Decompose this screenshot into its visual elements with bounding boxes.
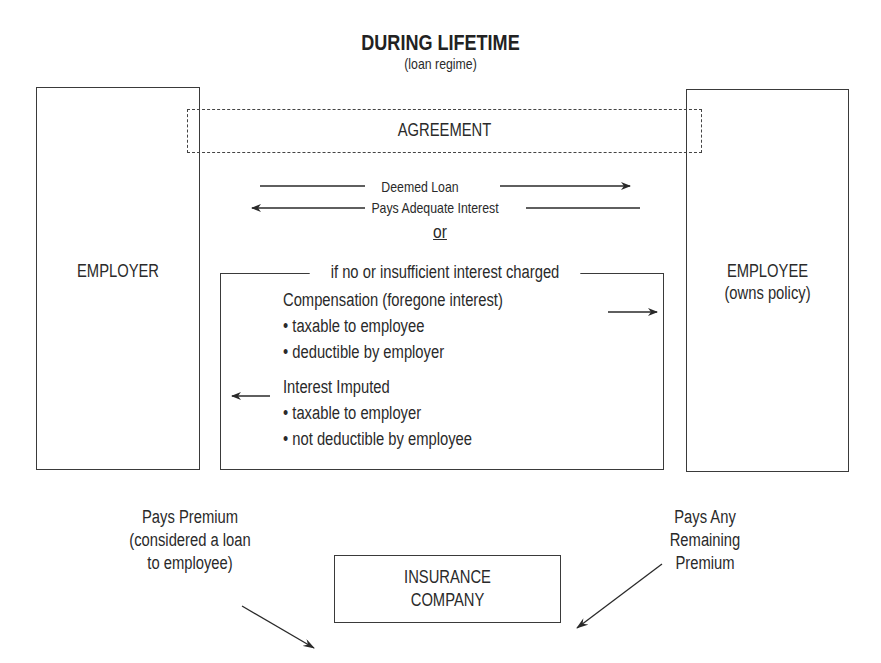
pays-remaining-premium-arrow [577,564,662,628]
connector-lines [0,0,881,663]
pays-premium-arrow [242,606,314,648]
